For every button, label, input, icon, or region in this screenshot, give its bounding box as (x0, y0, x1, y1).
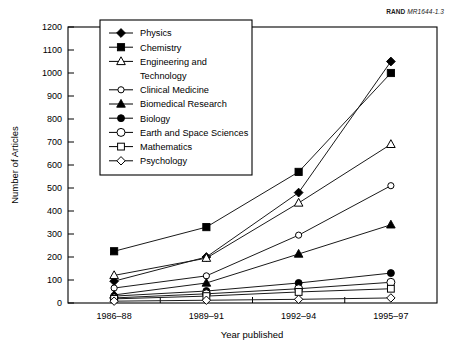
y-axis-title: Number of Articles (9, 126, 20, 204)
marker-open-square-icon (387, 285, 394, 292)
series-psychology (110, 294, 395, 306)
series-biomedical-research (110, 220, 395, 298)
series-line (114, 186, 391, 288)
marker-open-square-icon (295, 289, 302, 296)
marker-filled-triangle-icon (387, 220, 396, 228)
marker-open-diamond-icon (294, 295, 302, 303)
x-tick-label: 1992–94 (281, 311, 316, 321)
y-tick-label: 1200 (42, 22, 62, 32)
y-tick-label: 0 (57, 298, 62, 308)
line-chart: 0100200300400500600700800900100011001200… (0, 0, 450, 356)
legend-item-label[interactable]: Physics (140, 28, 172, 38)
marker-filled-square-icon (295, 168, 302, 175)
marker-open-circle-sm-icon (388, 183, 394, 189)
chart-legend: PhysicsChemistryEngineering andTechnolog… (100, 20, 252, 175)
marker-filled-square-icon (111, 248, 118, 255)
series-line (114, 225, 391, 295)
marker-filled-square-icon (117, 44, 124, 51)
legend-item-label[interactable]: Engineering and (140, 57, 207, 67)
x-tick-label: 1986–88 (97, 311, 132, 321)
y-tick-label: 1100 (43, 45, 62, 55)
y-tick-label: 1000 (42, 68, 62, 78)
rand-credit: RAND MR1644-1.3 (386, 8, 444, 15)
legend-item-label[interactable]: Clinical Medicine (140, 85, 209, 95)
x-axis-title: Year published (221, 329, 284, 340)
legend-item-label[interactable]: Chemistry (140, 43, 182, 53)
y-tick-label: 400 (47, 206, 62, 216)
marker-filled-diamond-icon (386, 57, 395, 66)
y-tick-label: 600 (47, 160, 62, 170)
y-tick-label: 300 (47, 229, 62, 239)
y-tick-label: 200 (47, 252, 62, 262)
legend-item-label[interactable]: Technology (140, 71, 187, 81)
marker-open-triangle-icon (294, 198, 303, 206)
legend-item-label[interactable]: Earth and Space Sciences (140, 128, 249, 138)
legend-item-label[interactable]: Biology (140, 114, 171, 124)
marker-open-circle-sm-icon (118, 87, 124, 93)
x-tick-label: 1995–97 (373, 311, 408, 321)
series-line (114, 273, 391, 296)
y-axis-ticks: 0100200300400500600700800900100011001200 (42, 22, 74, 308)
legend-item-label[interactable]: Biomedical Research (140, 99, 227, 109)
marker-filled-square-icon (387, 69, 394, 76)
y-tick-label: 800 (47, 114, 62, 124)
marker-open-diamond-icon (387, 294, 395, 302)
marker-filled-square-icon (203, 224, 210, 231)
rand-logo-text: RAND (386, 8, 405, 15)
y-tick-label: 500 (47, 183, 62, 193)
marker-filled-circle-icon (387, 270, 394, 277)
marker-open-square-icon (118, 143, 125, 150)
rand-doc-id: MR1644-1.3 (407, 8, 444, 15)
figure-container: RAND MR1644-1.3 010020030040050060070080… (0, 0, 450, 356)
y-tick-label: 700 (47, 137, 62, 147)
y-tick-label: 900 (47, 91, 62, 101)
marker-filled-diamond-icon (294, 188, 303, 197)
legend-item-label[interactable]: Mathematics (140, 142, 192, 152)
marker-open-triangle-icon (387, 140, 396, 148)
marker-open-circle-lg-icon (117, 128, 125, 136)
x-tick-label: 1989–91 (189, 311, 224, 321)
legend-item-label[interactable]: Psychology (140, 156, 187, 166)
marker-open-circle-sm-icon (296, 232, 302, 238)
y-tick-label: 100 (47, 275, 62, 285)
marker-filled-circle-icon (118, 115, 125, 122)
